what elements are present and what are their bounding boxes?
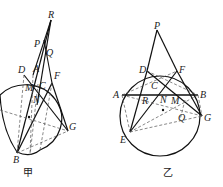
point-label-G: G xyxy=(69,121,76,132)
point-label-P: P xyxy=(153,20,160,31)
circle-yi xyxy=(120,76,200,156)
point-label-B: B xyxy=(13,154,19,165)
point-label-M: M xyxy=(170,95,180,106)
point-label-M: M xyxy=(24,82,34,93)
figure-caption-jia: 甲 xyxy=(23,167,33,178)
diagram-canvas: R P Q D A F M C N G B 甲 P D F C A B xyxy=(0,0,223,187)
point-label-F: F xyxy=(178,64,186,75)
figure-caption-yi: 乙 xyxy=(163,167,173,178)
point-label-A: A xyxy=(32,63,40,74)
point-label-D: D xyxy=(17,64,26,75)
line-PF xyxy=(157,30,177,71)
point-label-C: C xyxy=(39,80,46,91)
point-label-D: D xyxy=(138,64,147,75)
point-label-G: G xyxy=(204,112,211,123)
point-label-P: P xyxy=(33,38,40,49)
point-label-A: A xyxy=(112,89,120,100)
point-label-F: F xyxy=(53,70,61,81)
point-label-C: C xyxy=(151,80,158,91)
point-label-Q: Q xyxy=(178,112,186,123)
point-label-E: E xyxy=(119,134,126,145)
geometry-figure: R P Q D A F M C N G B 甲 P D F C A B xyxy=(0,0,223,187)
point-label-N: N xyxy=(159,94,168,105)
point-label-R: R xyxy=(47,9,54,20)
line-FG xyxy=(52,83,68,131)
point-label-R: R xyxy=(141,95,148,106)
line-PD xyxy=(147,30,157,71)
line-FG xyxy=(177,71,202,116)
point-label-B: B xyxy=(200,89,206,100)
figure-yi xyxy=(120,30,202,156)
point-label-Q: Q xyxy=(46,47,54,58)
point-label-N: N xyxy=(32,94,41,105)
